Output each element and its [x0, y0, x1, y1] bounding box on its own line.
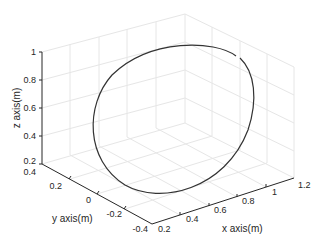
svg-text:0.8: 0.8: [242, 196, 255, 206]
svg-text:0.6: 0.6: [23, 103, 36, 113]
svg-text:0.4: 0.4: [23, 167, 36, 177]
z-axis-label: z axis(m): [11, 88, 22, 129]
svg-text:0.6: 0.6: [214, 205, 227, 215]
z-tick-labels: 1 0.8 0.6 0.4 0.2: [23, 47, 36, 166]
svg-text:0: 0: [86, 195, 91, 205]
svg-text:0.2: 0.2: [158, 224, 171, 234]
x-axis: [152, 178, 294, 224]
svg-text:0.8: 0.8: [23, 75, 36, 85]
svg-text:0.2: 0.2: [49, 181, 62, 191]
svg-text:-0.2: -0.2: [106, 209, 122, 219]
svg-text:-0.4: -0.4: [132, 224, 148, 234]
svg-text:1.2: 1.2: [298, 180, 311, 190]
y-axis-label: y axis(m): [52, 213, 93, 224]
svg-text:1: 1: [272, 187, 277, 197]
x-axis-label: x axis(m): [222, 223, 263, 234]
axes: [39, 52, 294, 224]
svg-text:1: 1: [31, 47, 36, 57]
3d-plot: 1 0.8 0.6 0.4 0.2 0.4 0.2 0 -0.2 -0.4 0.…: [0, 0, 323, 247]
svg-text:0.2: 0.2: [23, 156, 36, 166]
svg-text:0.4: 0.4: [186, 214, 199, 224]
svg-text:0.4: 0.4: [23, 131, 36, 141]
